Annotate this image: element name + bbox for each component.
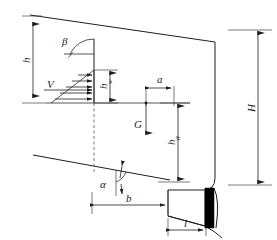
weight-application-point [145,102,148,105]
upper-slope-line [30,15,215,42]
alpha-angle-group: α [100,166,126,196]
G-force-group: G [134,102,147,133]
toe-slab-group [168,188,222,238]
solid-black-bar [205,188,214,228]
h0-dimension-group: h 0 [158,103,190,182]
V-label: V [47,78,55,90]
a-label-upper: a [157,73,163,85]
l-label: l [184,217,187,229]
h0-subscript: 0 [174,136,182,140]
l-dimension-group: l [168,217,206,236]
b-label: b [126,192,132,204]
right-face [168,42,215,190]
hw-dimension-group: h w [94,70,118,103]
figure-diagram: β V h h [0,0,277,240]
hw-subscript: w [106,79,114,84]
h-label: h [20,57,32,63]
figure-container: β V h h [0,0,277,240]
lower-slope-line [33,155,170,180]
pressure-triangle-group: V [44,70,94,103]
H-dimension-group: H [228,30,272,185]
H-label: H [245,103,257,113]
alpha-label: α [100,178,106,190]
beta-angle-group: β [61,35,94,58]
b-dimension-group: b [92,190,168,214]
h-dimension-group: h [20,16,46,103]
G-label: G [134,118,142,130]
beta-label: β [61,35,68,47]
a-dimension-group: a [146,73,174,106]
